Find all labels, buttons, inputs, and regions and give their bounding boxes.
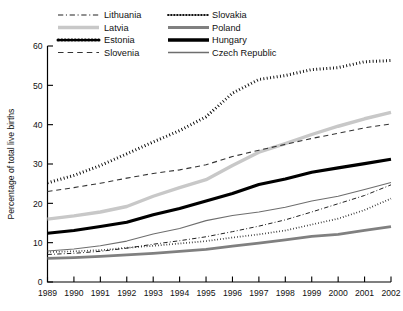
series-line-czech-republic: [48, 182, 392, 250]
chart-axis-labels: 0102030405060198919901991199219931994199…: [6, 41, 401, 298]
y-axis-title: Percentage of total live births: [6, 109, 16, 220]
y-tick-label: 10: [33, 238, 43, 248]
x-tick-label: 1994: [170, 288, 189, 298]
legend-label-lithuania: Lithuania: [104, 10, 142, 20]
x-tick-label: 1996: [223, 288, 242, 298]
x-tick-label: 2001: [355, 288, 374, 298]
chart-figure: LithuaniaSlovakiaLatviaPolandEstoniaHung…: [0, 0, 403, 311]
x-tick-label: 1998: [276, 288, 295, 298]
legend-label-slovenia: Slovenia: [104, 48, 140, 58]
x-tick-label: 1990: [64, 288, 83, 298]
legend-label-czech-republic: Czech Republic: [212, 48, 277, 58]
legend-label-estonia: Estonia: [104, 35, 136, 45]
x-tick-label: 1995: [196, 288, 215, 298]
x-tick-label: 1991: [91, 288, 110, 298]
x-tick-label: 1989: [38, 288, 57, 298]
y-tick-label: 30: [33, 159, 43, 169]
legend-label-hungary: Hungary: [212, 35, 247, 45]
line-chart: LithuaniaSlovakiaLatviaPolandEstoniaHung…: [0, 0, 403, 311]
x-tick-label: 1997: [249, 288, 268, 298]
chart-legend: LithuaniaSlovakiaLatviaPolandEstoniaHung…: [58, 10, 277, 58]
legend-label-latvia: Latvia: [104, 23, 129, 33]
series-line-estonia: [48, 61, 392, 183]
y-tick-label: 20: [33, 199, 43, 209]
series-line-lithuania: [48, 185, 392, 255]
series-line-poland: [48, 227, 392, 259]
x-tick-label: 1999: [302, 288, 321, 298]
series-line-slovenia: [48, 124, 392, 192]
legend-label-slovakia: Slovakia: [212, 10, 248, 20]
x-tick-label: 1993: [144, 288, 163, 298]
y-tick-label: 0: [38, 277, 43, 287]
x-tick-label: 1992: [117, 288, 136, 298]
chart-series: [48, 61, 392, 259]
y-tick-label: 50: [33, 81, 43, 91]
x-tick-label: 2002: [381, 288, 400, 298]
y-tick-label: 60: [33, 41, 43, 51]
y-tick-label: 40: [33, 120, 43, 130]
x-tick-label: 2000: [329, 288, 348, 298]
legend-label-poland: Poland: [212, 23, 241, 33]
